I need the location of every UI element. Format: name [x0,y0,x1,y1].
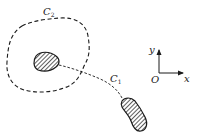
label-c2: C2 [43,7,54,18]
label-c1-sub: 1 [118,78,122,85]
label-y-axis: y [149,45,155,55]
label-c1: C1 [110,74,121,85]
outer-body [121,98,146,131]
label-x-axis: x [184,74,190,84]
label-c2-main: C [43,6,51,17]
label-c1-main: C [110,73,118,84]
label-c2-sub: 2 [51,11,55,18]
diagram-canvas [0,0,199,137]
label-origin: O [151,75,159,85]
inner-body [34,52,59,71]
